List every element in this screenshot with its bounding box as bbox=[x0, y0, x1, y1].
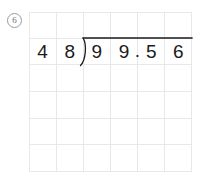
grid-cell[interactable] bbox=[165, 119, 192, 146]
grid-cell[interactable] bbox=[84, 12, 111, 39]
grid-cell[interactable] bbox=[57, 65, 84, 92]
grid-cell[interactable] bbox=[138, 65, 165, 92]
grid-cell[interactable] bbox=[29, 92, 57, 119]
divisor-digit: 4 bbox=[29, 38, 56, 65]
division-expression: 4 8 9 9 . 5 6 bbox=[29, 38, 192, 65]
grid-cell[interactable] bbox=[165, 145, 192, 172]
dividend-digit: 6 bbox=[165, 38, 192, 65]
grid-row bbox=[29, 65, 192, 92]
grid-cell[interactable] bbox=[84, 65, 111, 92]
grid-cell[interactable] bbox=[29, 119, 57, 146]
divisor-digit: 8 bbox=[56, 38, 83, 65]
grid-cell[interactable] bbox=[29, 12, 57, 39]
grid-cell[interactable] bbox=[165, 92, 192, 119]
dividend-digit: 5 bbox=[138, 38, 165, 65]
grid-cell[interactable] bbox=[165, 12, 192, 39]
grid-cell[interactable] bbox=[57, 92, 84, 119]
grid-cell[interactable] bbox=[84, 119, 111, 146]
grid-row bbox=[29, 119, 192, 146]
grid-cell[interactable] bbox=[29, 145, 57, 172]
grid-cell[interactable] bbox=[138, 145, 165, 172]
grid-cell[interactable] bbox=[57, 119, 84, 146]
grid-cell[interactable] bbox=[111, 12, 138, 39]
grid-cell[interactable] bbox=[111, 145, 138, 172]
grid-row bbox=[29, 145, 192, 172]
problem-number-badge: 6 bbox=[7, 13, 22, 28]
grid-cell[interactable] bbox=[111, 119, 138, 146]
grid-cell[interactable] bbox=[84, 92, 111, 119]
grid-cell[interactable] bbox=[111, 65, 138, 92]
dividend-digit: 9 bbox=[83, 38, 110, 65]
long-division-worksheet: 6 bbox=[0, 0, 201, 180]
grid-row bbox=[29, 92, 192, 119]
grid-cell[interactable] bbox=[138, 119, 165, 146]
grid-cell[interactable] bbox=[57, 145, 84, 172]
grid-cell[interactable] bbox=[57, 12, 84, 39]
grid-cell[interactable] bbox=[165, 65, 192, 92]
grid-cell[interactable] bbox=[84, 145, 111, 172]
grid-cell[interactable] bbox=[111, 92, 138, 119]
grid-row bbox=[29, 12, 192, 39]
grid-cell[interactable] bbox=[29, 65, 57, 92]
grid-cell[interactable] bbox=[138, 12, 165, 39]
grid-cell[interactable] bbox=[138, 92, 165, 119]
